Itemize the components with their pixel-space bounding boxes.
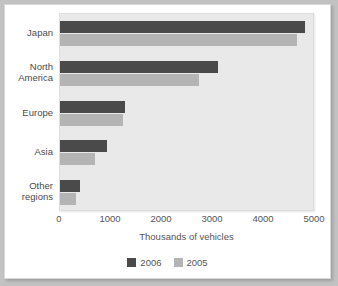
x-tick-3000: 3000 — [201, 213, 222, 224]
category-label-europe: Europe — [22, 107, 53, 118]
bar-2006-other-regions — [60, 180, 80, 192]
x-tick-0: 0 — [56, 213, 61, 224]
figure-frame: JapanNorthAmericaEuropeAsiaOtherregions … — [0, 0, 338, 286]
bar-group — [60, 140, 313, 165]
category-label-japan: Japan — [27, 27, 53, 38]
bar-2005-north-america — [60, 74, 199, 86]
legend-label: 2005 — [187, 257, 208, 268]
bar-group — [60, 180, 313, 205]
bar-2005-other-regions — [60, 193, 76, 205]
x-tick-2000: 2000 — [150, 213, 171, 224]
bar-2005-japan — [60, 34, 297, 46]
bar-2006-asia — [60, 140, 107, 152]
category-axis-labels: JapanNorthAmericaEuropeAsiaOtherregions — [5, 13, 57, 211]
x-tick-4000: 4000 — [252, 213, 273, 224]
legend-swatch-icon — [127, 258, 136, 267]
legend-label: 2006 — [140, 257, 161, 268]
category-label-other-regions: Otherregions — [22, 180, 53, 202]
legend-swatch-icon — [174, 258, 183, 267]
legend-item-2005[interactable]: 2005 — [174, 257, 208, 268]
plot-wrapper: JapanNorthAmericaEuropeAsiaOtherregions … — [5, 5, 330, 278]
bar-2006-japan — [60, 21, 305, 33]
bar-series-container — [60, 14, 313, 210]
bar-group — [60, 61, 313, 86]
x-axis-title: Thousands of vehicles — [59, 231, 314, 242]
x-axis-tick-labels: 010002000300040005000 — [59, 213, 314, 227]
bar-group — [60, 101, 313, 126]
bar-2005-asia — [60, 153, 95, 165]
bar-group — [60, 21, 313, 46]
x-tick-5000: 5000 — [303, 213, 324, 224]
category-label-north-america: NorthAmerica — [18, 61, 53, 83]
bar-2005-europe — [60, 114, 123, 126]
plot-area — [59, 13, 314, 211]
bar-2006-north-america — [60, 61, 218, 73]
chart-legend: 20062005 — [5, 257, 330, 268]
legend-item-2006[interactable]: 2006 — [127, 257, 161, 268]
x-tick-1000: 1000 — [99, 213, 120, 224]
category-label-asia: Asia — [35, 146, 53, 157]
bar-2006-europe — [60, 101, 125, 113]
chart-card: JapanNorthAmericaEuropeAsiaOtherregions … — [4, 4, 331, 279]
